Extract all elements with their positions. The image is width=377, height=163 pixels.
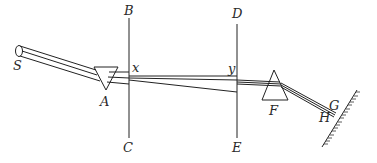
label-b: B (123, 3, 134, 18)
label-y: y (227, 61, 236, 76)
label-s: S (13, 58, 22, 73)
label-x: x (132, 60, 140, 75)
label-e: E (231, 140, 242, 155)
label-g: G (329, 98, 339, 113)
optics-diagram: S A B C x D E y F (0, 0, 377, 163)
incident-beam (20, 46, 100, 81)
prism-a (94, 67, 118, 90)
source-aperture (16, 46, 23, 57)
label-f: F (268, 103, 279, 118)
label-d: D (231, 6, 243, 21)
label-a: A (99, 94, 109, 109)
beams-x-to-de (129, 76, 237, 92)
beams-a-to-bc (107, 72, 129, 84)
label-c: C (123, 140, 133, 155)
label-h: H (318, 110, 331, 125)
beam-y-to-f (237, 80, 281, 86)
